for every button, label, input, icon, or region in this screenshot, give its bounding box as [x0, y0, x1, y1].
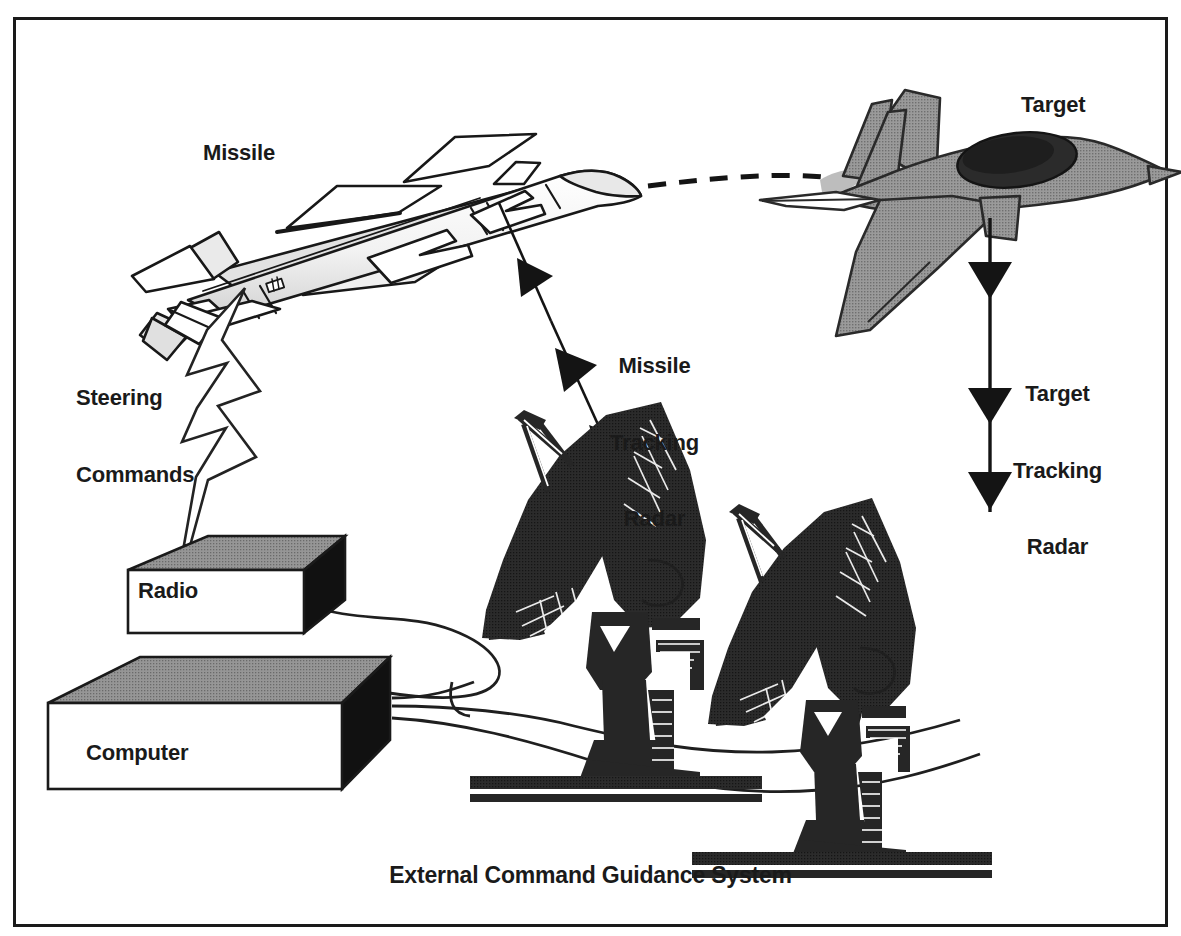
- label-steering-commands: Steering Commands: [76, 334, 194, 538]
- label-missile-tracking-radar-line2: Tracking: [610, 430, 699, 456]
- label-target-tracking-radar: Target Tracking Radar: [1013, 330, 1102, 611]
- label-target-tracking-radar-line1: Target: [1013, 381, 1102, 407]
- label-missile-tracking-radar: Missile Tracking Radar: [610, 302, 699, 583]
- label-target-tracking-radar-line2: Tracking: [1013, 458, 1102, 484]
- label-steering-commands-line1: Steering: [76, 385, 194, 411]
- label-radio: Radio: [138, 578, 198, 604]
- figure-caption: External Command Guidance System: [0, 862, 1181, 889]
- label-target-tracking-radar-line3: Radar: [1013, 534, 1102, 560]
- label-computer: Computer: [86, 740, 188, 766]
- label-missile-tracking-radar-line1: Missile: [610, 353, 699, 379]
- figure-root: Missile Target Steering Commands Missile…: [0, 0, 1181, 936]
- label-missile-tracking-radar-line3: Radar: [610, 506, 699, 532]
- label-missile: Missile: [203, 140, 275, 166]
- label-steering-commands-line2: Commands: [76, 462, 194, 488]
- computer-equipment-box: [48, 657, 390, 789]
- label-target: Target: [1021, 92, 1085, 118]
